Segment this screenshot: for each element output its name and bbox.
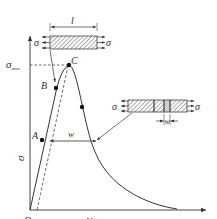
w-specimen-label: w bbox=[165, 117, 171, 126]
right-specimen-pointer bbox=[97, 113, 132, 140]
right-specimen: σ σ w bbox=[97, 100, 201, 140]
top-specimen-pointer bbox=[50, 50, 55, 82]
top-specimen-body bbox=[50, 36, 97, 49]
l-label: l bbox=[71, 15, 74, 26]
origin-label: O bbox=[24, 215, 31, 219]
stress-displacement-diagram: σ Δl O σmax A B C w l σ σ bbox=[0, 0, 217, 219]
y-axis-label: σ bbox=[14, 155, 26, 161]
right-sigma-left: σ bbox=[112, 101, 118, 112]
top-sigma-left: σ bbox=[34, 37, 40, 48]
right-sigma-right: σ bbox=[195, 101, 201, 112]
w-curve-label: w bbox=[68, 129, 74, 139]
softening-point-marker bbox=[80, 105, 84, 109]
point-c-label: C bbox=[71, 55, 78, 66]
point-a-label: A bbox=[31, 130, 39, 141]
softening-curve bbox=[69, 65, 177, 209]
point-a-marker bbox=[40, 138, 44, 142]
point-b-label: B bbox=[41, 80, 47, 91]
right-specimen-right-part bbox=[170, 100, 187, 112]
right-specimen-left-part bbox=[154, 100, 164, 112]
top-sigma-right: σ bbox=[106, 37, 112, 48]
top-specimen: l σ σ bbox=[34, 15, 112, 82]
point-b-marker bbox=[54, 86, 58, 90]
right-specimen-band bbox=[164, 100, 170, 112]
right-specimen-left-hatch bbox=[128, 100, 154, 112]
sigma-max-label: σmax bbox=[6, 58, 21, 71]
x-axis-label: Δl bbox=[83, 216, 93, 219]
